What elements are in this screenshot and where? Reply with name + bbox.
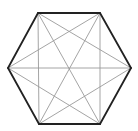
outline-edge [100, 68, 131, 124]
hexagon-diagram [0, 0, 138, 131]
outline-edge [100, 13, 131, 68]
diagonal-edge [39, 68, 131, 124]
diagonal-edge [8, 13, 100, 68]
outline-edge [8, 68, 39, 124]
outline-edge [8, 13, 38, 68]
diagonal-edge [38, 13, 39, 124]
hexagon-complete-graph-svg [0, 0, 138, 131]
diagonal-lines [8, 13, 131, 124]
diagonal-edge [8, 68, 100, 124]
